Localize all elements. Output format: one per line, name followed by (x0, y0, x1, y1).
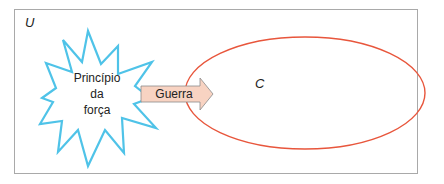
set-c-label: C (255, 76, 264, 91)
universe-label: U (25, 15, 34, 30)
arrow-label: Guerra (144, 87, 204, 101)
star-label-line-2: da (62, 86, 132, 102)
star-label-line-1: Princípio (62, 70, 132, 86)
star-label-line-3: força (62, 102, 132, 118)
star-label: Princípio da força (62, 70, 132, 118)
set-c-ellipse (185, 37, 425, 149)
